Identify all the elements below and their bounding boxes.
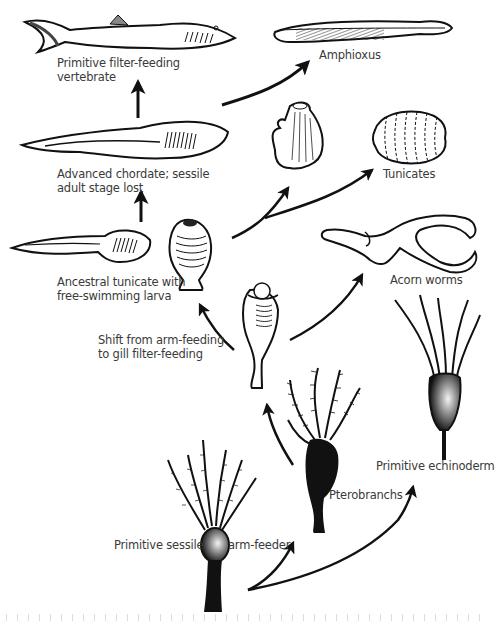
arrow-to-acorn-worms [290,275,362,340]
gill-feeder-illustration [243,283,278,388]
arrow-to-gill-feeder [267,405,293,465]
tunicate-adult-illustration [273,103,323,169]
amphioxus-illustration [274,21,452,42]
label-shift-arm-to-gill: Shift from arm-feeding to gill filter-fe… [98,334,224,361]
tunicate-barrel-illustration [373,112,446,164]
vertebrate-fish-illustration [25,15,235,52]
label-tunicates: Tunicates [383,168,435,182]
pterobranch-illustration [287,368,360,533]
primitive-echinoderm-illustration [395,295,480,460]
advanced-chordate-illustration [22,122,228,159]
cut-off-caption [0,614,490,621]
label-acorn-worms: Acorn worms [390,274,462,288]
label-arm-feeder: arm-feeder [228,539,290,553]
arrow-to-amphioxus [222,62,308,105]
arrow-to-tunicates [265,170,372,218]
label-amphioxus: Amphioxus [319,49,381,63]
label-primitive-filter-feeding-vertebrate: Primitive filter-feeding vertebrate [57,57,180,84]
label-primitive-sessile: Primitive sessile [114,539,203,553]
tunicate-larva-illustration [12,230,150,262]
label-ancestral-tunicate: Ancestral tunicate with free-swimming la… [57,276,185,303]
label-primitive-echinoderm: Primitive echinoderm [376,460,495,474]
label-pterobranchs: Pterobranchs [329,489,403,503]
primitive-arm-feeder-illustration [168,440,256,612]
label-advanced-chordate: Advanced chordate; sessile adult stage l… [57,168,209,195]
acorn-worm-illustration [322,216,477,273]
